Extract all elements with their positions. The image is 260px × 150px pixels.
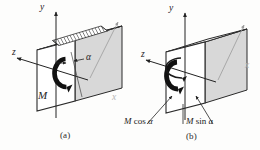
moment-cos-function: cos bbox=[134, 116, 146, 126]
moment-cos-symbol: M bbox=[124, 116, 132, 126]
moment-sin-symbol: M bbox=[186, 116, 194, 126]
panel-a-drawing bbox=[17, 12, 122, 118]
mechanics-figure: y z x α M (a) y z x M cos α M sin a (b) bbox=[0, 0, 260, 150]
panel-b-drawing bbox=[146, 13, 247, 124]
moment-sin-argument: a bbox=[209, 116, 214, 126]
axis-label-y-a: y bbox=[40, 2, 44, 12]
angle-label-alpha-a: α bbox=[86, 52, 91, 62]
axis-label-z-a: z bbox=[12, 47, 16, 57]
panel-caption-a: (a) bbox=[60, 130, 70, 140]
moment-sin-label-b: M sin a bbox=[186, 116, 213, 126]
axis-label-x-a: x bbox=[112, 92, 116, 102]
moment-cos-argument: α bbox=[148, 116, 153, 126]
moment-sin-function: sin bbox=[196, 116, 207, 126]
moment-cos-label-b: M cos α bbox=[124, 116, 153, 126]
axis-label-z-b: z bbox=[141, 49, 145, 59]
axis-label-y-b: y bbox=[169, 3, 173, 13]
moment-label-M-a: M bbox=[38, 89, 47, 101]
axis-label-x-b: x bbox=[245, 60, 249, 70]
figure-drawing bbox=[0, 0, 260, 150]
panel-caption-b: (b) bbox=[186, 131, 197, 141]
block-b bbox=[166, 29, 247, 113]
